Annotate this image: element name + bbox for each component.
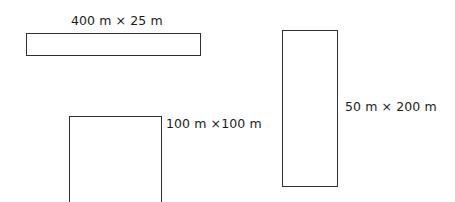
label-wide-bar: 400 m × 25 m (71, 15, 163, 28)
rectangle-square (69, 116, 162, 202)
rectangle-wide-bar (26, 33, 201, 56)
label-tall: 50 m × 200 m (345, 101, 437, 114)
rectangle-tall (282, 30, 338, 187)
label-square: 100 m ×100 m (166, 118, 262, 131)
diagram-canvas: 400 m × 25 m 100 m ×100 m 50 m × 200 m (0, 0, 455, 202)
